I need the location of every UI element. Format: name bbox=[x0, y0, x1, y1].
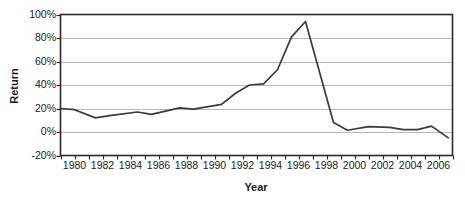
x-axis-tick-labels: 1980198219841986198819901992199419961998… bbox=[0, 0, 465, 201]
x-tick-label: 2006 bbox=[419, 160, 459, 171]
x-axis-title-text: Year bbox=[244, 181, 267, 193]
return-vs-year-line-chart: Return 100% 80% 60% 40% 20% 0% -20% 1980… bbox=[0, 0, 465, 201]
x-axis-title: Year bbox=[0, 181, 465, 193]
